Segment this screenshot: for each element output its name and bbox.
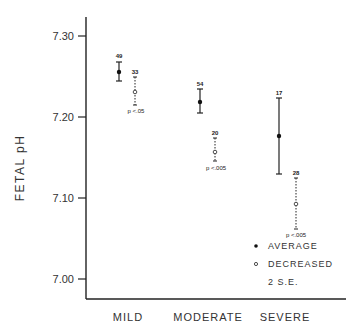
- moderate-average-errorbar: 54: [197, 81, 204, 113]
- y-axis-label: FETAL pH: [13, 135, 27, 202]
- n-label: 33: [132, 69, 139, 75]
- legend-se-label: 2 S.E.: [268, 277, 299, 287]
- n-label: 54: [197, 81, 204, 87]
- p-value-label: p <.05: [128, 108, 146, 114]
- y-ticks: 7.30 7.20 7.10 7.00: [53, 30, 86, 285]
- y-tick-label: 7.30: [53, 30, 74, 42]
- y-tick-label: 7.10: [53, 192, 74, 204]
- severe-average-errorbar: 17: [276, 90, 283, 174]
- n-label: 28: [293, 170, 300, 176]
- decreased-marker-icon: [254, 262, 257, 265]
- chart: FETAL pH 7.30 7.20 7.10 7.00 MILD MODERA…: [0, 0, 357, 336]
- legend: AVERAGE DECREASED 2 S.E.: [254, 241, 333, 287]
- x-category-label: SEVERE: [260, 311, 311, 323]
- n-label: 17: [276, 90, 283, 96]
- p-value-label: p <.005: [206, 165, 227, 171]
- y-tick-label: 7.00: [53, 273, 74, 285]
- legend-average-label: AVERAGE: [268, 241, 318, 251]
- x-category-label: MODERATE: [173, 311, 243, 323]
- moderate-decreased-errorbar: 20 p <.005: [206, 130, 227, 171]
- p-value-label: p <.005: [286, 232, 307, 238]
- n-label: 20: [212, 130, 219, 136]
- legend-decreased-label: DECREASED: [268, 259, 333, 269]
- n-label: 49: [116, 53, 123, 59]
- mild-average-errorbar: 49: [116, 53, 123, 81]
- average-marker-icon: [254, 244, 258, 248]
- x-category-label: MILD: [113, 311, 143, 323]
- mild-decreased-errorbar: 33 p <.05: [128, 69, 146, 114]
- y-tick-label: 7.20: [53, 111, 74, 123]
- severe-decreased-errorbar: 28 p <.005: [286, 170, 307, 238]
